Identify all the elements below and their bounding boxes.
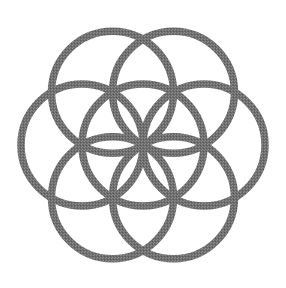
seed-of-life-figure: Seed of Life symbol: seven overlapping e… (0, 0, 286, 288)
artboard: Seed of Life symbol: seven overlapping e… (0, 0, 286, 288)
